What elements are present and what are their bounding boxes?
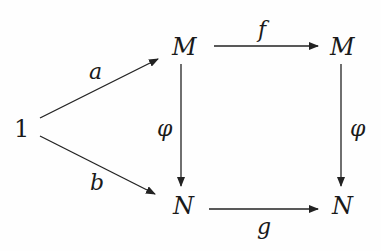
label-a: a <box>89 59 102 84</box>
label-phi-left: φ <box>157 116 173 141</box>
label-g: g <box>257 214 271 239</box>
label-phi-right: φ <box>350 116 366 141</box>
label-f: f <box>256 17 270 42</box>
commutative-diagram: 1 M M N N a b f g φ φ <box>0 0 381 251</box>
label-b: b <box>90 170 104 195</box>
node-m-left: M <box>171 33 198 61</box>
node-1: 1 <box>14 115 29 143</box>
node-n-right: N <box>331 192 354 220</box>
node-n-left: N <box>172 192 195 220</box>
node-m-right: M <box>329 33 356 61</box>
